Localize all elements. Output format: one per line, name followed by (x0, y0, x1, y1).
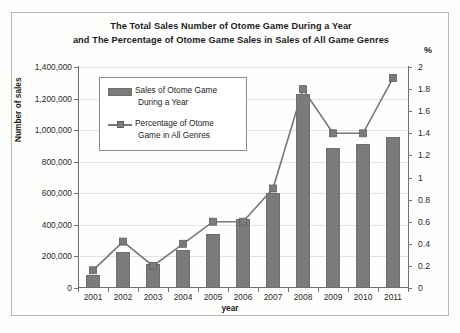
legend-line-marker-icon (108, 120, 132, 130)
x-axis-tick-mark (78, 288, 79, 292)
secondary-y-axis-tick-label: 2 (418, 62, 444, 72)
secondary-y-axis-tick-mark (408, 178, 412, 179)
secondary-y-axis-tick-label: 1.6 (418, 106, 444, 116)
y-axis-tick-label: 400,000 (10, 220, 72, 230)
y-axis-tick-label: 800,000 (10, 157, 72, 167)
x-axis-tick-mark (408, 288, 409, 292)
line-marker (210, 218, 217, 225)
x-axis-tick-label: 2010 (348, 292, 378, 302)
secondary-y-axis-tick-mark (408, 200, 412, 201)
x-axis-tick-label: 2004 (168, 292, 198, 302)
x-axis-tick-label: 2007 (258, 292, 288, 302)
x-axis-tick-label: 2003 (138, 292, 168, 302)
x-axis-tick-label: 2008 (288, 292, 318, 302)
secondary-y-axis-tick-label: 1.4 (418, 128, 444, 138)
y-axis-tick-label: 1,000,000 (10, 125, 72, 135)
secondary-y-axis-tick-label: 1.2 (418, 150, 444, 160)
y-axis-tick-label: 1,200,000 (10, 94, 72, 104)
line-marker (150, 262, 157, 269)
secondary-y-axis-tick-mark (408, 222, 412, 223)
secondary-y-axis-tick-mark (408, 155, 412, 156)
secondary-y-axis-tick-label: 0.6 (418, 217, 444, 227)
secondary-y-axis-tick-label: 0.4 (418, 239, 444, 249)
legend-bar-label-line-2: During a Year (138, 97, 188, 109)
x-axis-tick-label: 2011 (378, 292, 408, 302)
secondary-axis-unit-label: % (424, 45, 432, 55)
legend-bar-label: Sales of Otome Game During a Year (135, 85, 217, 108)
y-axis-tick-label: 600,000 (10, 188, 72, 198)
chart-title: The Total Sales Number of Otome Game Dur… (40, 20, 422, 47)
chart-title-line-1: The Total Sales Number of Otome Game Dur… (40, 20, 422, 34)
secondary-y-axis-tick-label: 0.2 (418, 261, 444, 271)
x-axis-tick-label: 2005 (198, 292, 228, 302)
secondary-y-axis-tick-label: 1 (418, 173, 444, 183)
line-marker (120, 238, 127, 245)
line-marker (240, 218, 247, 225)
legend-item-bar: Sales of Otome Game During a Year (108, 85, 217, 108)
secondary-y-axis-tick-mark (408, 67, 412, 68)
chart-legend: Sales of Otome Game During a Year Percen… (99, 77, 247, 151)
legend-item-line: Percentage of Otome Game in All Genres (108, 118, 214, 141)
line-marker (270, 185, 277, 192)
x-axis-title: year (0, 303, 460, 313)
line-marker (300, 86, 307, 93)
y-axis-tick-label: 1,400,000 (10, 62, 72, 72)
x-axis-tick-label: 2006 (228, 292, 258, 302)
y-axis-tick-label: 0 (10, 283, 72, 293)
secondary-y-axis-tick-mark (408, 111, 412, 112)
line-marker (390, 75, 397, 82)
legend-line-label-line-2: Game in All Genres (138, 130, 210, 142)
line-marker (180, 240, 187, 247)
x-axis-tick-label: 2001 (78, 292, 108, 302)
legend-line-label-line-1: Percentage of Otome (135, 118, 214, 128)
legend-bar-swatch-icon (108, 88, 132, 96)
secondary-y-axis-tick-label: 1.8 (418, 84, 444, 94)
secondary-y-axis-tick-mark (408, 266, 412, 267)
legend-bar-label-line-1: Sales of Otome Game (135, 85, 217, 95)
secondary-y-axis-tick-label: 0.8 (418, 195, 444, 205)
legend-line-label: Percentage of Otome Game in All Genres (135, 118, 214, 141)
secondary-y-axis-tick-mark (408, 133, 412, 134)
x-axis-tick-label: 2002 (108, 292, 138, 302)
y-axis-tick-label: 200,000 (10, 251, 72, 261)
chart-title-line-2: and The Percentage of Otome Game Sales i… (40, 34, 422, 48)
secondary-y-axis-tick-mark (408, 244, 412, 245)
line-marker (330, 130, 337, 137)
chart-screenshot: The Total Sales Number of Otome Game Dur… (0, 0, 460, 333)
x-axis-tick-label: 2009 (318, 292, 348, 302)
secondary-y-axis-tick-label: 0 (418, 283, 444, 293)
line-marker (360, 130, 367, 137)
secondary-y-axis-tick-mark (408, 89, 412, 90)
line-marker (90, 267, 97, 274)
